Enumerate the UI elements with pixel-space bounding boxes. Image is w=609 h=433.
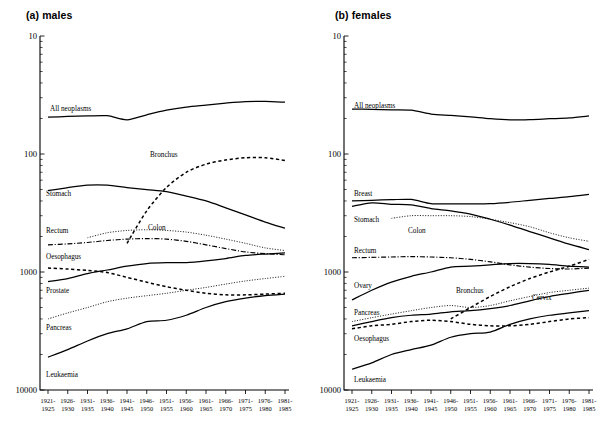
x-tick-label-bottom: 1925 — [346, 405, 359, 412]
axes — [40, 36, 289, 390]
x-tick-label-top: 1921- — [345, 397, 360, 404]
series-label-leukaemia: Leukaemia — [46, 371, 79, 379]
series-label-pancreas: Pancreas — [46, 324, 72, 332]
x-tick-label-top: 1926- — [364, 397, 379, 404]
x-tick-label-top: 1961- — [503, 397, 518, 404]
x-tick-label-bottom: 1940 — [405, 405, 418, 412]
x-tick-label-bottom: 1930 — [61, 405, 74, 412]
x-tick-label-top: 1936- — [100, 397, 115, 404]
x-tick-label-bottom: 1985 — [583, 405, 596, 412]
series-label-bronchus: Bronchus — [456, 287, 484, 295]
x-axis-ticks: 1921-19251926-19301931-19351936-19401941… — [345, 390, 597, 412]
panel-females: (b) females 100001000100101921-19251926-… — [304, 0, 609, 433]
x-tick-label-top: 1921- — [41, 397, 56, 404]
chart-males: 100001000100101921-19251926-19301931-193… — [0, 0, 305, 433]
series-line-breast — [352, 194, 589, 204]
x-tick-label-bottom: 1965 — [200, 405, 213, 412]
series-line-pancreas — [48, 294, 285, 357]
x-tick-label-top: 1956- — [179, 397, 194, 404]
series-label-breast: Breast — [354, 190, 372, 198]
x-tick-label-bottom: 1975 — [543, 405, 556, 412]
x-tick-label-top: 1931- — [80, 397, 95, 404]
series-label-oesophagus: Oesophagus — [354, 335, 389, 343]
series-label-oesophagus: Oesophagus — [46, 253, 81, 261]
x-tick-label-bottom: 1935 — [385, 405, 398, 412]
series-group — [352, 109, 589, 369]
x-tick-label-top: 1926- — [60, 397, 75, 404]
x-tick-label-bottom: 1970 — [523, 405, 536, 412]
series-line-rectum — [352, 257, 589, 269]
x-tick-label-bottom: 1960 — [484, 405, 497, 412]
x-tick-label-top: 1976- — [562, 397, 577, 404]
x-tick-label-bottom: 1985 — [279, 405, 292, 412]
x-tick-label-top: 1941- — [424, 397, 439, 404]
series-line-oesophagus — [48, 253, 285, 282]
x-tick-label-bottom: 1950 — [444, 405, 457, 412]
x-tick-label-bottom: 1950 — [140, 405, 153, 412]
x-tick-label-top: 1951- — [159, 397, 174, 404]
chart-females: 100001000100101921-19251926-19301931-193… — [304, 0, 609, 433]
x-tick-label-bottom: 1930 — [365, 405, 378, 412]
x-tick-label-bottom: 1945 — [425, 405, 438, 412]
x-tick-label-top: 1941- — [120, 397, 135, 404]
series-line-stomach — [352, 203, 589, 250]
x-tick-label-top: 1951- — [463, 397, 478, 404]
x-tick-label-top: 1976- — [258, 397, 273, 404]
series-line-rectum — [48, 239, 285, 255]
x-tick-label-bottom: 1970 — [219, 405, 232, 412]
x-tick-label-top: 1971- — [542, 397, 557, 404]
x-tick-label-bottom: 1980 — [259, 405, 272, 412]
x-tick-label-bottom: 1955 — [464, 405, 477, 412]
x-tick-label-bottom: 1925 — [42, 405, 55, 412]
series-label-leukaemia: Leukaemia — [354, 376, 387, 384]
series-line-leukaemia — [48, 268, 285, 295]
series-label-prostate: Prostate — [46, 287, 69, 295]
x-tick-label-bottom: 1980 — [563, 405, 576, 412]
series-labels: All neoplasmsBronchusStomachColonRectumO… — [46, 105, 178, 379]
series-label-rectum: Rectum — [354, 247, 377, 255]
y-tick-label: 100 — [328, 149, 341, 159]
series-label-cervix: Cervix — [532, 294, 552, 302]
y-tick-label: 1000 — [324, 267, 341, 277]
x-tick-label-top: 1936- — [404, 397, 419, 404]
x-tick-label-bottom: 1945 — [121, 405, 134, 412]
x-tick-label-bottom: 1935 — [81, 405, 94, 412]
series-label-pancreas: Pancreas — [354, 309, 380, 317]
series-label-ovary: Ovary — [354, 282, 372, 290]
figure-root: (a) males 100001000100101921-19251926-19… — [0, 0, 609, 433]
x-tick-label-top: 1971- — [238, 397, 253, 404]
y-tick-label: 100 — [24, 149, 37, 159]
series-label-rectum: Rectum — [46, 227, 69, 235]
x-tick-label-top: 1961- — [199, 397, 214, 404]
x-tick-label-top: 1931- — [384, 397, 399, 404]
y-tick-label: 10000 — [16, 385, 37, 395]
x-tick-label-top: 1956- — [483, 397, 498, 404]
y-tick-label: 10 — [332, 31, 341, 41]
series-labels: All neoplasmsBreastStomachColonRectumOva… — [354, 102, 552, 384]
x-tick-label-bottom: 1940 — [101, 405, 114, 412]
x-tick-label-bottom: 1965 — [504, 405, 517, 412]
x-tick-label-top: 1946- — [139, 397, 154, 404]
x-tick-label-top: 1966- — [218, 397, 233, 404]
series-label-all-neoplasms: All neoplasms — [50, 105, 92, 113]
series-group — [48, 101, 285, 357]
series-label-colon: Colon — [408, 227, 426, 235]
series-label-all-neoplasms: All neoplasms — [354, 102, 396, 110]
y-tick-label: 10000 — [320, 385, 341, 395]
series-label-stomach: Stomach — [354, 216, 380, 224]
series-label-bronchus: Bronchus — [150, 151, 178, 159]
series-line-all-neoplasms — [352, 109, 589, 120]
x-axis-ticks: 1921-19251926-19301931-19351936-19401941… — [41, 390, 293, 412]
series-line-cervix — [352, 290, 589, 326]
x-tick-label-top: 1981- — [582, 397, 597, 404]
series-line-oesophagus — [352, 318, 589, 329]
series-label-stomach: Stomach — [46, 190, 72, 198]
x-tick-label-top: 1946- — [443, 397, 458, 404]
series-label-colon: Colon — [148, 224, 166, 232]
y-tick-label: 10 — [28, 31, 37, 41]
x-tick-label-bottom: 1955 — [160, 405, 173, 412]
series-line-stomach — [48, 185, 285, 228]
panel-males: (a) males 100001000100101921-19251926-19… — [0, 0, 305, 433]
x-tick-label-bottom: 1960 — [180, 405, 193, 412]
x-tick-label-bottom: 1975 — [239, 405, 252, 412]
